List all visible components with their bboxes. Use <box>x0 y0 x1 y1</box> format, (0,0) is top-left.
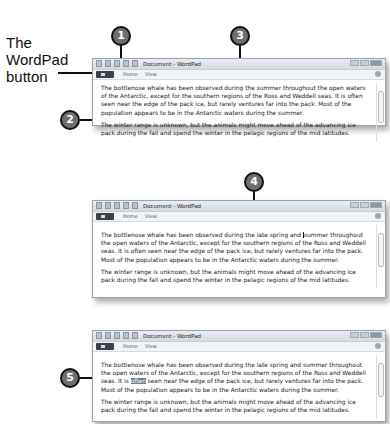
window-controls <box>350 60 382 66</box>
tab-home[interactable]: Home <box>123 70 138 79</box>
document-area[interactable]: The bottlenose whale has been observed d… <box>93 352 385 422</box>
redo-icon[interactable] <box>123 202 129 209</box>
ribbon-tabs: Home View <box>93 70 385 80</box>
inserted-text: late spring and <box>257 232 303 238</box>
paragraph-1: The bottlenose whale has been observed d… <box>101 231 371 264</box>
ribbon-tabs: Home View <box>93 212 385 222</box>
help-icon[interactable] <box>375 71 381 77</box>
title-bar: Document - WordPad <box>93 59 385 70</box>
save-icon[interactable] <box>105 60 111 67</box>
selected-word: often <box>131 378 146 384</box>
customize-dropdown-icon[interactable] <box>132 60 138 67</box>
undo-icon[interactable] <box>114 202 120 209</box>
app-icon <box>96 60 102 67</box>
callout-2: 2 <box>60 110 80 130</box>
quick-access-toolbar <box>96 60 138 67</box>
tab-view[interactable]: View <box>145 342 157 351</box>
callout-5: 5 <box>60 368 80 388</box>
title-bar: Document - WordPad <box>93 331 385 342</box>
paragraph-1: The bottlenose whale has been observed d… <box>101 84 371 117</box>
leader-line-wordpad <box>58 72 94 74</box>
window-controls <box>350 332 382 338</box>
scroll-thumb[interactable] <box>378 91 384 123</box>
scroll-thumb[interactable] <box>378 233 384 267</box>
redo-icon[interactable] <box>123 332 129 339</box>
help-icon[interactable] <box>375 343 381 349</box>
tab-view[interactable]: View <box>145 212 157 221</box>
wordpad-button[interactable] <box>96 71 114 78</box>
callout-3: 3 <box>230 26 250 46</box>
vertical-scrollbar[interactable] <box>376 83 383 142</box>
minimize-button[interactable] <box>350 332 359 338</box>
vertical-scrollbar[interactable] <box>376 225 383 289</box>
window-title: Document - WordPad <box>143 331 201 341</box>
quick-access-toolbar <box>96 332 138 339</box>
close-button[interactable] <box>370 332 382 338</box>
undo-icon[interactable] <box>114 60 120 67</box>
window-title: Document - WordPad <box>143 201 201 211</box>
save-icon[interactable] <box>105 202 111 209</box>
wordpad-button[interactable] <box>96 343 114 350</box>
wordpad-button-annotation: The WordPad button <box>6 34 76 85</box>
callout-1: 1 <box>111 26 131 46</box>
tab-home[interactable]: Home <box>123 342 138 351</box>
paragraph-2: The winter range is unknown, but the ani… <box>101 121 371 137</box>
app-icon <box>96 332 102 339</box>
maximize-button[interactable] <box>360 332 369 338</box>
save-icon[interactable] <box>105 332 111 339</box>
paragraph-2: The winter range is unknown, but the ani… <box>101 398 371 414</box>
wordpad-window-3: Document - WordPad Home View The bottlen… <box>92 330 386 422</box>
customize-dropdown-icon[interactable] <box>132 332 138 339</box>
customize-dropdown-icon[interactable] <box>132 202 138 209</box>
wordpad-window-2: Document - WordPad Home View The bottlen… <box>92 200 386 298</box>
wordpad-button[interactable] <box>96 213 114 220</box>
minimize-button[interactable] <box>350 60 359 66</box>
maximize-button[interactable] <box>360 202 369 208</box>
minimize-button[interactable] <box>350 202 359 208</box>
title-bar: Document - WordPad <box>93 201 385 212</box>
tab-home[interactable]: Home <box>123 212 138 221</box>
window-controls <box>350 202 382 208</box>
ribbon-tabs: Home View <box>93 342 385 352</box>
undo-icon[interactable] <box>114 332 120 339</box>
vertical-scrollbar[interactable] <box>376 355 383 419</box>
document-area[interactable]: The bottlenose whale has been observed d… <box>93 80 385 145</box>
window-title: Document - WordPad <box>143 59 201 69</box>
scroll-thumb[interactable] <box>378 363 384 397</box>
close-button[interactable] <box>370 202 382 208</box>
maximize-button[interactable] <box>360 60 369 66</box>
paragraph-1: The bottlenose whale has been observed d… <box>101 361 371 394</box>
redo-icon[interactable] <box>123 60 129 67</box>
close-button[interactable] <box>370 60 382 66</box>
paragraph-2: The winter range is unknown, but the ani… <box>101 268 371 284</box>
wordpad-window-1: Document - WordPad Home View The bottlen… <box>92 58 386 126</box>
app-icon <box>96 202 102 209</box>
callout-4: 4 <box>244 172 264 192</box>
quick-access-toolbar <box>96 202 138 209</box>
document-area[interactable]: The bottlenose whale has been observed d… <box>93 222 385 292</box>
help-icon[interactable] <box>375 213 381 219</box>
tab-view[interactable]: View <box>145 70 157 79</box>
